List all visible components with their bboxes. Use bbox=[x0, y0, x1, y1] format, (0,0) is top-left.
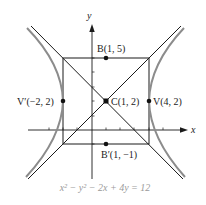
y-axis-arrow-icon bbox=[89, 24, 94, 32]
point-B-prime bbox=[104, 142, 109, 147]
label-C: C(1, 2) bbox=[111, 96, 139, 108]
point-V-prime bbox=[61, 99, 66, 104]
label-V-prime: V′(−2, 2) bbox=[17, 96, 54, 108]
label-B: B(1, 5) bbox=[97, 43, 125, 55]
x-axis-arrow-icon bbox=[180, 127, 188, 132]
equation-caption: x² − y² − 2x + 4y = 12 bbox=[59, 182, 151, 193]
point-V bbox=[147, 99, 152, 104]
point-B bbox=[104, 56, 109, 61]
label-B-prime: B′(1, −1) bbox=[101, 149, 137, 161]
y-axis-label: y bbox=[86, 10, 92, 21]
point-C bbox=[104, 99, 109, 104]
hyperbola-diagram: y x B(1, 5) C(1, 2) V′(−2, 2) V(4, 2) B′… bbox=[0, 0, 206, 205]
x-axis-label: x bbox=[190, 124, 196, 135]
label-V: V(4, 2) bbox=[153, 96, 182, 108]
